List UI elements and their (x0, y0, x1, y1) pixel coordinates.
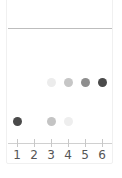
lane-label-1: 1 (11, 148, 23, 162)
spot-lane-6-upper (98, 78, 107, 87)
spot-lane-3-upper (47, 78, 56, 87)
spot-lane-1-lower (13, 117, 22, 126)
lane-label-4: 4 (62, 148, 74, 162)
lane-label-3: 3 (45, 148, 57, 162)
lane-label-2: 2 (28, 148, 40, 162)
spot-lane-4-upper (64, 78, 73, 87)
solvent-front-line (8, 28, 112, 29)
origin-baseline (8, 143, 112, 144)
spot-lane-3-lower (47, 117, 56, 126)
spot-lane-5-upper (81, 78, 90, 87)
baseline-tick (102, 139, 103, 147)
baseline-tick (34, 139, 35, 147)
lane-label-6: 6 (96, 148, 108, 162)
tlc-plate (6, 0, 113, 164)
spot-lane-4-lower (64, 117, 73, 126)
baseline-tick (68, 139, 69, 147)
baseline-tick (17, 139, 18, 147)
baseline-tick (51, 139, 52, 147)
baseline-tick (85, 139, 86, 147)
lane-label-5: 5 (79, 148, 91, 162)
